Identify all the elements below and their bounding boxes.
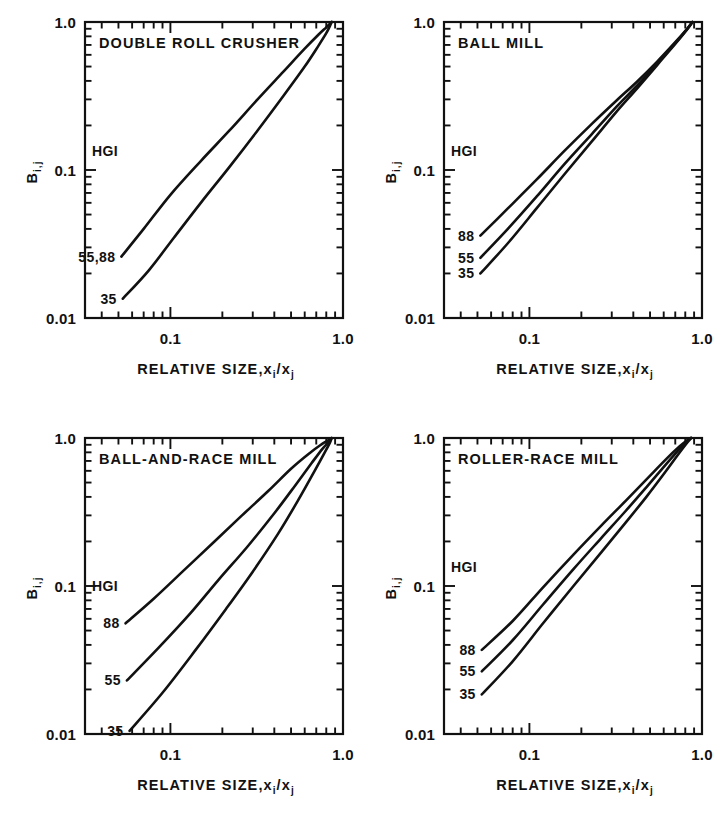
- x-axis-title-part-4: x: [282, 777, 291, 793]
- y-tick-label: 0.1: [55, 578, 76, 595]
- curve-label-hgi-55: 55: [459, 663, 475, 679]
- x-axis-title-part-5: j: [649, 369, 654, 380]
- x-axis-title-part-4: x: [282, 361, 291, 377]
- curves: [482, 438, 691, 694]
- y-tick-label: 0.1: [414, 162, 435, 179]
- y-axis-title-main: B: [383, 588, 399, 600]
- curve-hgi-35: [480, 22, 692, 273]
- curve-hgi-88: [480, 22, 692, 236]
- x-axis-title-part-5: j: [290, 369, 295, 380]
- curve-hgi-55: [482, 438, 691, 671]
- legend-header-hgi: HGI: [451, 143, 477, 159]
- plot-svg-double-roll-crusher: DOUBLE ROLL CRUSHER1.00.10.010.11.0Bi,jR…: [0, 0, 359, 416]
- curve-label-hgi-88: 88: [459, 642, 475, 658]
- curve-label-hgi-55: 55: [105, 672, 121, 688]
- legend-header-hgi: HGI: [92, 578, 118, 594]
- x-axis-title: RELATIVE SIZE,xi/xj: [137, 777, 295, 796]
- curve-label-hgi-88: 88: [458, 228, 474, 244]
- curve-label-hgi-35: 35: [107, 723, 123, 739]
- y-axis-title-main: B: [24, 172, 40, 184]
- x-axis-title-part-0: RELATIVE SIZE,: [137, 777, 263, 793]
- y-tick-label: 1.0: [55, 14, 76, 31]
- plot-panel-double-roll-crusher: DOUBLE ROLL CRUSHER1.00.10.010.11.0Bi,jR…: [0, 0, 359, 416]
- y-axis-title-subscript: i,j: [32, 160, 43, 172]
- panel-title: BALL MILL: [458, 35, 544, 51]
- curve-label-hgi-35: 35: [459, 686, 475, 702]
- svg-text:Bi,j: Bi,j: [383, 160, 402, 183]
- panel-title: BALL-AND-RACE MILL: [99, 451, 277, 467]
- y-tick-label: 0.1: [55, 162, 76, 179]
- y-tick-label: 1.0: [414, 14, 435, 31]
- curves: [126, 438, 332, 731]
- figure-root: DOUBLE ROLL CRUSHER1.00.10.010.11.0Bi,jR…: [0, 0, 718, 832]
- axis-frame: [444, 22, 702, 318]
- y-tick-label: 0.01: [46, 310, 76, 327]
- curve-label-hgi-35: 35: [100, 291, 116, 307]
- x-tick-label: 1.0: [332, 746, 353, 763]
- plot-panel-ball-and-race-mill: BALL-AND-RACE MILL1.00.10.010.11.0Bi,jRE…: [0, 416, 359, 832]
- plot-svg-ball-mill: BALL MILL1.00.10.010.11.0Bi,jRELATIVE SI…: [359, 0, 718, 416]
- curve-hgi-55: [127, 438, 332, 680]
- x-axis-title-part-5: j: [649, 785, 654, 796]
- x-axis-title: RELATIVE SIZE,xi/xj: [496, 361, 654, 380]
- x-axis-title-part-0: RELATIVE SIZE,: [496, 361, 622, 377]
- curves: [480, 22, 692, 273]
- curves: [121, 22, 331, 299]
- panel-title: ROLLER-RACE MILL: [458, 451, 619, 467]
- y-tick-label: 0.01: [405, 726, 435, 743]
- svg-text:Bi,j: Bi,j: [24, 576, 43, 599]
- x-tick-label: 1.0: [691, 330, 712, 347]
- x-axis-title-part-1: x: [264, 361, 273, 377]
- x-axis-title-part-1: x: [623, 361, 632, 377]
- curve-label-hgi-35: 35: [458, 265, 474, 281]
- legend-header-hgi: HGI: [92, 143, 118, 159]
- x-axis-title-part-5: j: [290, 785, 295, 796]
- y-axis-title-main: B: [383, 172, 399, 184]
- x-tick-label: 1.0: [691, 746, 712, 763]
- x-axis-title: RELATIVE SIZE,xi/xj: [496, 777, 654, 796]
- curve-label-hgi-55: 55: [458, 250, 474, 266]
- curve-label-hgi-55-88: 55,88: [78, 249, 115, 265]
- axis-ticks: [444, 22, 702, 318]
- y-axis-title-subscript: i,j: [391, 160, 402, 172]
- y-tick-label: 0.1: [414, 578, 435, 595]
- svg-text:Bi,j: Bi,j: [383, 576, 402, 599]
- y-axis-title-subscript: i,j: [391, 576, 402, 588]
- plot-svg-ball-and-race-mill: BALL-AND-RACE MILL1.00.10.010.11.0Bi,jRE…: [0, 416, 359, 832]
- curve-hgi-35: [130, 438, 332, 731]
- legend-header-hgi: HGI: [451, 559, 477, 575]
- y-tick-label: 0.01: [405, 310, 435, 327]
- x-tick-label: 0.1: [160, 746, 181, 763]
- x-axis-title: RELATIVE SIZE,xi/xj: [137, 361, 295, 380]
- panel-title: DOUBLE ROLL CRUSHER: [99, 35, 300, 51]
- plot-svg-roller-race-mill: ROLLER-RACE MILL1.00.10.010.11.0Bi,jRELA…: [359, 416, 718, 832]
- x-tick-label: 0.1: [160, 330, 181, 347]
- curve-hgi-35: [482, 438, 691, 694]
- x-axis-title-part-1: x: [264, 777, 273, 793]
- curve-hgi-35: [123, 22, 332, 299]
- svg-text:Bi,j: Bi,j: [24, 160, 43, 183]
- x-tick-label: 1.0: [332, 330, 353, 347]
- y-tick-label: 1.0: [414, 430, 435, 447]
- x-tick-label: 0.1: [519, 330, 540, 347]
- y-axis-title: Bi,j: [383, 576, 402, 599]
- y-tick-label: 0.01: [46, 726, 76, 743]
- x-axis-title-part-0: RELATIVE SIZE,: [496, 777, 622, 793]
- x-axis-title-part-0: RELATIVE SIZE,: [137, 361, 263, 377]
- curve-label-hgi-88: 88: [103, 615, 119, 631]
- x-axis-title-part-4: x: [641, 361, 650, 377]
- y-axis-title-subscript: i,j: [32, 576, 43, 588]
- y-axis-title: Bi,j: [383, 160, 402, 183]
- y-tick-label: 1.0: [55, 430, 76, 447]
- x-axis-title-part-4: x: [641, 777, 650, 793]
- curve-hgi-55-88: [121, 22, 331, 257]
- y-axis-title: Bi,j: [24, 160, 43, 183]
- y-axis-title-main: B: [24, 588, 40, 600]
- plot-panel-roller-race-mill: ROLLER-RACE MILL1.00.10.010.11.0Bi,jRELA…: [359, 416, 718, 832]
- x-axis-title-part-1: x: [623, 777, 632, 793]
- y-axis-title: Bi,j: [24, 576, 43, 599]
- x-tick-label: 0.1: [519, 746, 540, 763]
- plot-panel-ball-mill: BALL MILL1.00.10.010.11.0Bi,jRELATIVE SI…: [359, 0, 718, 416]
